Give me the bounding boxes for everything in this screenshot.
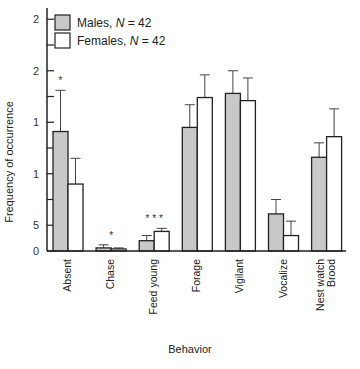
x-axis: AbsentChaseFeed youngForageVigilantVocal… [47,251,346,314]
x-category-label: Vocalize [277,259,289,298]
bar-group: * * * [139,213,169,251]
bar-males [139,241,154,251]
bar-group [182,75,212,251]
bar-females [68,184,83,251]
bar-chart: 051122 *** * * AbsentChaseFeed youngFora… [0,0,360,369]
legend-swatch [55,15,70,30]
bar-males [269,214,284,251]
x-axis-title: Behavior [168,343,212,355]
x-category-label: Vigilant [233,259,245,293]
bar-females [240,101,255,251]
legend: Males, N = 42Females, N = 42 [55,15,166,48]
y-tick-label: 2 [33,65,39,77]
bar-group [312,109,342,251]
x-category-label: Chase [104,259,116,290]
y-tick-label: 5 [33,219,39,231]
y-axis-title: Frequency of occurrence [3,101,15,223]
legend-label: Females, N = 42 [77,34,166,48]
legend-label: Males, N = 42 [77,16,152,30]
bar-males [312,157,327,251]
bars: *** * * [53,71,342,251]
x-category-label: Forage [190,259,202,292]
bar-females [327,137,342,251]
bar-group: * [53,75,83,251]
x-category-label: Brood [325,259,337,287]
y-tick-label: 2 [33,13,39,25]
bar-group [225,71,255,251]
bar-females [284,236,299,251]
y-tick-label: 0 [33,245,39,257]
significance-marker: * [109,230,113,241]
legend-item-females: Females, N = 42 [55,33,166,48]
legend-swatch [55,33,70,48]
bar-females [154,231,169,251]
bar-group [269,200,299,252]
bar-males [53,132,68,251]
significance-marker: * [59,75,63,86]
y-tick-label: 1 [33,168,39,180]
legend-item-males: Males, N = 42 [55,15,152,30]
y-tick-label: 1 [33,116,39,128]
y-axis: 051122 [33,8,54,257]
x-category-label: Feed young [147,259,159,315]
x-category-label: Absent [61,259,73,292]
bar-females [197,98,212,251]
bar-group: * [96,230,126,251]
bar-males [182,127,197,251]
significance-marker: * * * [146,213,163,224]
bar-males [225,93,240,251]
